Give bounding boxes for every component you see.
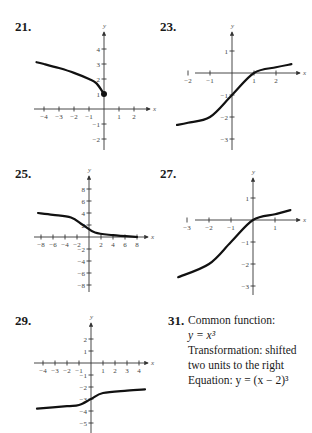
x-tick-label: −4 [40,113,48,121]
y-tick-label: −2 [93,136,101,144]
function-curve [37,62,105,94]
graph-25: xy−8−6−4−22468−8−6−4−22468 [34,166,155,292]
x-tick-label: 4 [137,367,141,375]
y-tick-label: 4 [82,210,86,218]
x-tick-label: 1 [252,77,256,85]
x-tick-label: 2 [113,367,117,375]
y-axis-label: y [89,313,94,321]
x-tick-label: −4 [39,367,47,375]
x-tick-label: −2 [184,77,192,85]
y-tick-label: −1 [242,239,250,247]
y-tick-label: −2 [80,384,88,392]
y-tick-label: −4 [78,258,86,266]
x-tick-label: 6 [123,241,127,249]
x-tick-label: 2 [274,77,278,85]
graphs-canvas: xy−4−3−2−112−2−11234xy−2−112−3−2−11xy−8−… [0,0,312,433]
y-tick-label: −8 [78,282,86,290]
x-tick-label: 3 [125,367,129,375]
graph-21: xy−4−3−2−112−2−11234 [34,22,157,150]
x-tick-label: −1 [227,224,235,232]
x-tick-label: 2 [99,241,103,249]
y-tick-label: −2 [221,114,229,122]
x-tick-label: 1 [117,113,121,121]
y-tick-label: −5 [80,420,88,428]
x-tick-label: −8 [37,241,45,249]
y-tick-label: −6 [78,270,86,278]
graph-27: xy−3−2−11−3−2−11 [178,168,307,295]
y-axis-label: y [102,22,107,30]
y-tick-label: −3 [221,136,229,144]
y-tick-label: 1 [97,91,101,99]
y-tick-label: 4 [97,46,101,54]
x-tick-label: 8 [135,241,139,249]
x-tick-label: 1 [101,367,105,375]
x-tick-label: −3 [51,367,59,375]
y-tick-label: −2 [242,261,250,269]
y-tick-label: −1 [80,372,88,380]
y-tick-label: −1 [93,121,101,129]
graph-23: xy−2−112−3−2−11 [177,22,307,150]
x-axis-label: x [152,105,157,113]
y-tick-label: −3 [242,283,250,291]
y-axis-label: y [87,166,92,174]
y-tick-label: 6 [82,198,86,206]
x-tick-label: −2 [70,113,78,121]
y-tick-label: −2 [78,246,86,254]
x-axis-label: x [302,216,307,224]
y-tick-label: 2 [97,76,101,84]
x-tick-label: 4 [111,241,115,249]
x-tick-label: −2 [205,224,213,232]
y-axis-label: y [251,168,256,176]
y-tick-label: 1 [225,48,229,56]
y-tick-label: 1 [84,348,88,356]
y-tick-label: 2 [84,336,88,344]
x-tick-label: 2 [132,113,136,121]
endpoint-dot [101,91,107,97]
x-tick-label: −3 [183,224,191,232]
y-tick-label: 8 [82,186,86,194]
y-tick-label: 1 [246,195,250,203]
x-tick-label: −1 [206,77,214,85]
y-tick-label: 3 [97,61,101,69]
x-tick-label: −4 [61,241,69,249]
y-axis-label: y [230,22,235,30]
y-tick-label: −1 [221,92,229,100]
x-axis-label: x [302,69,307,77]
x-tick-label: 1 [273,224,277,232]
x-tick-label: −2 [63,367,71,375]
x-tick-label: −6 [49,241,57,249]
x-axis-label: x [150,359,155,367]
y-tick-label: −4 [80,408,88,416]
x-tick-label: −3 [55,113,63,121]
x-axis-label: x [150,233,155,241]
graph-29: xy−4−3−2−11234−5−4−3−2−112 [34,313,155,433]
